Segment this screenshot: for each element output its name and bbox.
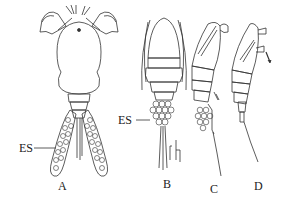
panel-label-c: C bbox=[210, 183, 218, 195]
panel-label-d: D bbox=[254, 180, 263, 192]
panel-label-b: B bbox=[163, 178, 171, 190]
label-es-b: ES bbox=[118, 114, 132, 126]
specimen-c bbox=[192, 22, 228, 176]
figure-drawing bbox=[0, 0, 281, 205]
copepod-figure: ES A ES B C D bbox=[0, 0, 281, 205]
specimen-d bbox=[232, 24, 271, 163]
panel-label-a: A bbox=[58, 180, 67, 192]
specimen-b bbox=[136, 18, 186, 170]
label-es-a: ES bbox=[19, 142, 33, 154]
specimen-a bbox=[34, 5, 118, 176]
